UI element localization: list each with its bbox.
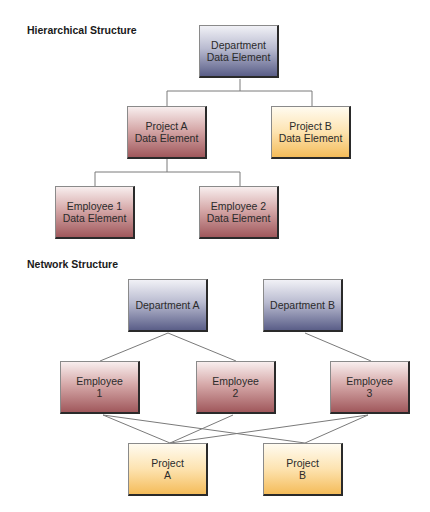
node-label: Employee 1 bbox=[67, 200, 122, 213]
edge-emp1-projb bbox=[103, 415, 305, 443]
edge-dept-to-projects bbox=[167, 91, 312, 106]
node-label: 2 bbox=[233, 387, 239, 400]
node-label: Department A bbox=[135, 299, 199, 312]
n-node-employee-1: Employee 1 bbox=[60, 361, 140, 414]
h-node-department: Department Data Element bbox=[199, 25, 279, 78]
node-label: A bbox=[164, 469, 171, 482]
node-label: Employee bbox=[212, 375, 259, 388]
node-label: Department B bbox=[270, 299, 335, 312]
h-node-project-b: Project B Data Element bbox=[271, 106, 351, 159]
node-label: 1 bbox=[97, 387, 103, 400]
edge-emp3-proja bbox=[170, 415, 368, 443]
node-label: 3 bbox=[367, 387, 373, 400]
edge-deptb-emp3 bbox=[305, 333, 371, 361]
node-label: Project B bbox=[289, 120, 332, 133]
network-title: Network Structure bbox=[27, 258, 118, 270]
n-node-department-a: Department A bbox=[128, 279, 208, 332]
n-node-employee-2: Employee 2 bbox=[196, 361, 276, 414]
hierarchical-title: Hierarchical Structure bbox=[27, 24, 137, 36]
node-label: Data Element bbox=[207, 51, 271, 64]
n-node-project-b: Project B bbox=[263, 443, 343, 496]
node-label: Department bbox=[211, 39, 266, 52]
edge-depta-emp2 bbox=[168, 333, 236, 361]
node-label: Employee 2 bbox=[211, 200, 266, 213]
h-node-project-a: Project A Data Element bbox=[127, 106, 207, 159]
h-node-employee-2: Employee 2 Data Element bbox=[199, 186, 279, 239]
node-label: Data Element bbox=[207, 212, 271, 225]
n-node-department-b: Department B bbox=[263, 279, 343, 332]
h-node-employee-1: Employee 1 Data Element bbox=[55, 186, 135, 239]
node-label: Project bbox=[286, 457, 319, 470]
node-label: Data Element bbox=[279, 132, 343, 145]
node-label: Employee bbox=[346, 375, 393, 388]
node-label: Project bbox=[151, 457, 184, 470]
edge-projecta-to-employees bbox=[95, 172, 240, 186]
node-label: Data Element bbox=[135, 132, 199, 145]
n-node-project-a: Project A bbox=[128, 443, 208, 496]
node-label: B bbox=[299, 469, 306, 482]
n-node-employee-3: Employee 3 bbox=[330, 361, 410, 414]
node-label: Employee bbox=[76, 375, 123, 388]
edge-depta-emp1 bbox=[100, 333, 168, 361]
node-label: Project A bbox=[145, 120, 187, 133]
node-label: Data Element bbox=[63, 212, 127, 225]
